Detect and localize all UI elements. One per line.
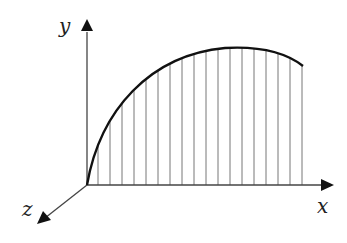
hatch-lines: [98, 48, 302, 185]
area-under-curve-figure: [0, 0, 347, 243]
diagram: y x z: [0, 0, 347, 243]
z-axis-arrow-icon: [37, 211, 51, 224]
z-axis: [45, 185, 87, 218]
x-axis-label: x: [317, 196, 328, 216]
curve: [87, 48, 303, 185]
x-axis-arrow-icon: [321, 179, 334, 191]
y-axis-label: y: [59, 16, 70, 36]
z-axis-label: z: [22, 199, 33, 219]
y-axis-arrow-icon: [81, 19, 93, 31]
